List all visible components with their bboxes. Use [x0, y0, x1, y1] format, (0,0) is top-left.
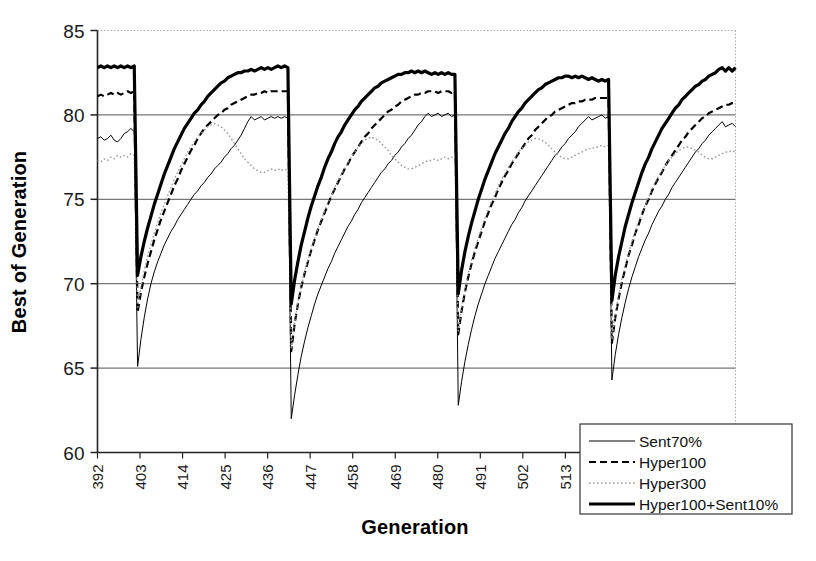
chart-canvas: 606570758085 392403414425436447458469480… [0, 0, 816, 561]
legend-label-0: Sent70% [639, 433, 702, 450]
y-tick-label-70: 70 [63, 274, 84, 295]
legend-label-1: Hyper100 [639, 454, 707, 471]
y-tick-label-85: 85 [63, 21, 84, 42]
y-tick-label-65: 65 [63, 358, 84, 379]
x-tick-label-480: 480 [429, 465, 446, 490]
x-tick-label-425: 425 [217, 465, 234, 490]
y-tick-label-80: 80 [63, 105, 84, 126]
x-tick-label-436: 436 [259, 465, 276, 490]
y-axis-title: Best of Generation [8, 151, 30, 334]
chart-legend[interactable]: Sent70%Hyper100Hyper300Hyper100+Sent10% [580, 424, 792, 514]
y-tick-label-60: 60 [63, 443, 84, 464]
x-tick-label-469: 469 [387, 465, 404, 490]
x-tick-label-447: 447 [302, 465, 319, 490]
y-tick-label-75: 75 [63, 189, 84, 210]
x-tick-label-458: 458 [344, 465, 361, 490]
x-tick-label-491: 491 [472, 465, 489, 490]
x-tick-label-392: 392 [89, 465, 106, 490]
x-tick-label-403: 403 [132, 465, 149, 490]
x-tick-label-502: 502 [514, 465, 531, 490]
x-axis-title: Generation [361, 516, 469, 538]
chart-figure: 606570758085 392403414425436447458469480… [0, 0, 816, 561]
x-tick-label-414: 414 [174, 465, 191, 490]
legend-label-2: Hyper300 [639, 475, 707, 492]
x-tick-label-513: 513 [557, 465, 574, 490]
legend-label-3: Hyper100+Sent10% [639, 496, 778, 513]
